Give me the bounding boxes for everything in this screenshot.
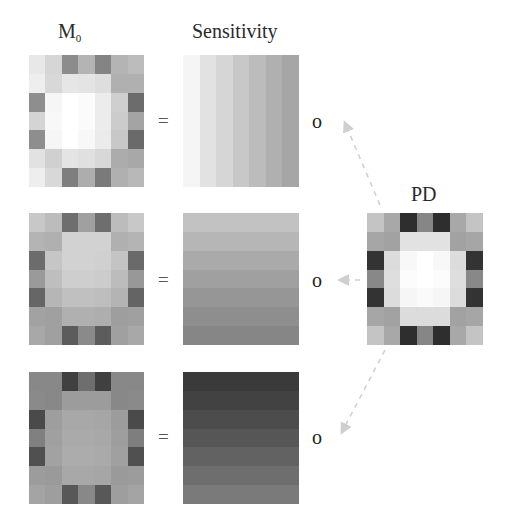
arrows-layer bbox=[0, 0, 507, 532]
arrow-to-row-3 bbox=[342, 350, 385, 432]
arrow-to-row-1 bbox=[345, 123, 380, 205]
